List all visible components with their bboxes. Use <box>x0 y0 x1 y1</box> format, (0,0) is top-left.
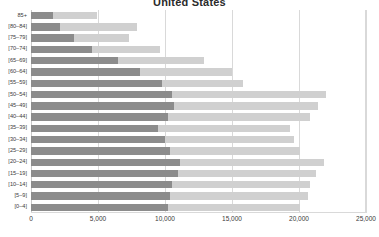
bar-row <box>31 136 366 143</box>
bar-foreground-series <box>31 80 162 87</box>
y-axis-label: [55–59] <box>8 80 27 86</box>
y-axis-label: [40–44] <box>8 114 27 120</box>
y-axis-label: [5–9] <box>15 193 27 199</box>
y-axis-label: [25–29] <box>8 148 27 154</box>
bar-foreground-series <box>31 125 158 132</box>
bar-foreground-series <box>31 34 74 41</box>
bar-foreground-series <box>31 181 172 188</box>
x-axis-tick-labels: 05,00010,00015,00020,00025,000 <box>0 216 379 230</box>
plot-border-bottom <box>31 212 366 213</box>
bar-row <box>31 91 366 98</box>
x-axis-tick-label: 15,000 <box>222 216 242 223</box>
bar-row <box>31 192 366 199</box>
y-axis-label: [65–69] <box>8 58 27 64</box>
plot-area <box>31 10 366 213</box>
bar-foreground-series <box>31 57 118 64</box>
bar-foreground-series <box>31 159 180 166</box>
bar-row <box>31 12 366 19</box>
bar-row <box>31 159 366 166</box>
x-axis-tick-label: 0 <box>29 216 33 223</box>
bar-foreground-series <box>31 102 174 109</box>
bar-foreground-series <box>31 136 165 143</box>
bar-row <box>31 113 366 120</box>
bar-foreground-series <box>31 91 172 98</box>
y-axis-label: [60–64] <box>8 69 27 75</box>
y-axis-label: [10–14] <box>8 182 27 188</box>
bar-foreground-series <box>31 23 60 30</box>
bar-row <box>31 68 366 75</box>
y-axis-label: [0–4] <box>15 204 27 210</box>
y-axis-label: [15–19] <box>8 171 27 177</box>
x-axis-tick-label: 10,000 <box>155 216 175 223</box>
y-axis-label: [80–84] <box>8 24 27 30</box>
gridline <box>366 10 367 213</box>
y-axis-label: [20–24] <box>8 159 27 165</box>
bar-row <box>31 46 366 53</box>
plot-border-right <box>365 10 366 213</box>
x-axis-tick-label: 5,000 <box>90 216 106 223</box>
bar-foreground-series <box>31 68 140 75</box>
bars-container <box>31 10 366 213</box>
bar-foreground-series <box>31 147 170 154</box>
bar-foreground-series <box>31 204 168 211</box>
bar-foreground-series <box>31 170 178 177</box>
y-axis-label: [30–34] <box>8 137 27 143</box>
bar-row <box>31 102 366 109</box>
bar-row <box>31 57 366 64</box>
bar-row <box>31 181 366 188</box>
y-axis-label: 85+ <box>18 13 28 19</box>
bar-row <box>31 170 366 177</box>
y-axis-label: [45–49] <box>8 103 27 109</box>
bar-foreground-series <box>31 192 170 199</box>
bar-row <box>31 80 366 87</box>
x-axis-tick-label: 25,000 <box>356 216 376 223</box>
chart-title: United States <box>0 0 379 8</box>
bar-row <box>31 23 366 30</box>
bar-row <box>31 125 366 132</box>
bar-foreground-series <box>31 12 53 19</box>
bar-foreground-series <box>31 113 168 120</box>
bar-foreground-series <box>31 46 92 53</box>
bar-row <box>31 204 366 211</box>
y-axis-category-labels: 85+[80–84][75–79][70–74][65–69][60–64][5… <box>0 10 29 213</box>
bar-row <box>31 147 366 154</box>
y-axis-label: [35–39] <box>8 125 27 131</box>
bar-row <box>31 34 366 41</box>
y-axis-label: [70–74] <box>8 46 27 52</box>
y-axis-label: [50–54] <box>8 92 27 98</box>
population-pyramid-chart: United States 85+[80–84][75–79][70–74][6… <box>0 0 379 237</box>
x-axis-tick-label: 20,000 <box>289 216 309 223</box>
y-axis-label: [75–79] <box>8 35 27 41</box>
